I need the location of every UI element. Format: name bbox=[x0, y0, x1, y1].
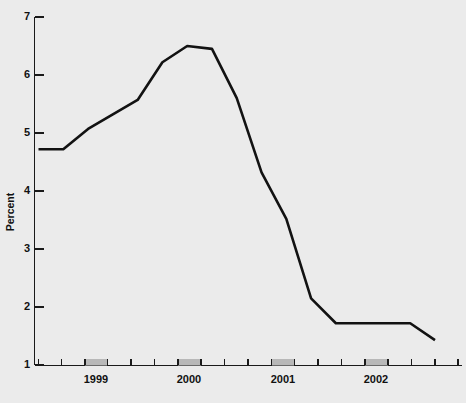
y-tick-label-2: 2 bbox=[24, 300, 30, 312]
y-tick-label-4: 4 bbox=[24, 184, 31, 196]
y-tick-label-3: 3 bbox=[24, 242, 30, 254]
shaded-band-2000 bbox=[178, 359, 201, 366]
x-tick-label-2000: 2000 bbox=[177, 373, 201, 385]
y-tick-label-7: 7 bbox=[24, 10, 30, 22]
chart-figure: Percent 7 6 5 4 3 bbox=[0, 0, 466, 403]
shaded-band-2001 bbox=[272, 359, 294, 366]
x-tick-label-1999: 1999 bbox=[84, 373, 108, 385]
y-tick-label-5: 5 bbox=[24, 126, 30, 138]
y-tick-label-1: 1 bbox=[24, 358, 30, 370]
chart-background bbox=[0, 0, 466, 403]
y-tick-label-6: 6 bbox=[24, 68, 30, 80]
shaded-band-1999 bbox=[85, 359, 107, 366]
line-chart-canvas: Percent 7 6 5 4 3 bbox=[0, 0, 466, 403]
x-tick-label-2002: 2002 bbox=[364, 373, 388, 385]
y-axis-title: Percent bbox=[4, 192, 16, 231]
x-tick-label-2001: 2001 bbox=[271, 373, 295, 385]
shaded-band-2002 bbox=[365, 359, 388, 366]
